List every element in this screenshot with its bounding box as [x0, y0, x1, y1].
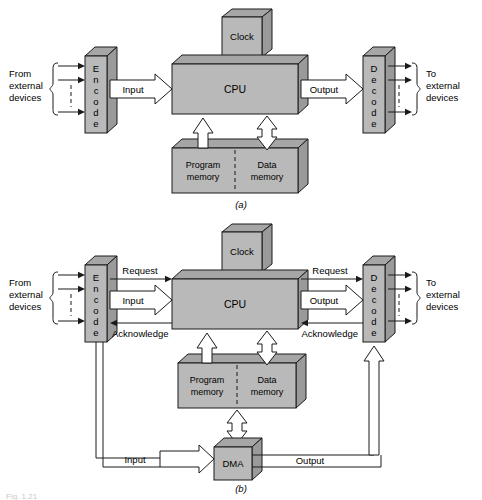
decode-label-a-letter-3: o [371, 96, 376, 107]
to-external-devices-group-a: To external devices [388, 63, 460, 115]
decode-label-b-letter-4: d [371, 316, 376, 327]
data-memory-label-a-line1: Data [257, 160, 276, 170]
cpu-block-b: CPU [172, 270, 308, 329]
figure-root: Clock CPU Program memory Data memory [0, 0, 482, 500]
memory-block-b: Program memory Data memory [178, 354, 306, 408]
to-external-brace-b [412, 272, 420, 324]
dma-to-decode-vertical-arrow-b [364, 346, 384, 455]
encode-to-dma-input-lower-b [103, 342, 160, 467]
dma-label-b: DMA [222, 458, 244, 469]
program-memory-label-a-line1: Program [186, 160, 221, 170]
from-external-arrowhead-2-a [78, 77, 85, 83]
from-external-label-a-line2: external [9, 80, 43, 91]
to-external-arrowhead-1-a [405, 63, 412, 69]
from-external-arrowhead-2-b [78, 286, 85, 292]
to-external-label-b-line2: external [426, 289, 460, 300]
decode-label-b-letter-3: o [371, 305, 376, 316]
from-external-label-b-line3: devices [9, 301, 41, 312]
acknowledge-left-label-b: Acknowledge [112, 328, 169, 339]
clock-block-b: Clock [222, 224, 272, 272]
decode-label-a-letter-4: d [371, 107, 376, 118]
output-signal-label-a: Output [310, 84, 339, 95]
data-memory-label-b-line2: memory [251, 387, 284, 397]
program-memory-label-b-line2: memory [191, 387, 224, 397]
cpu-label-b: CPU [224, 298, 246, 310]
panel-a-diagram: Clock CPU Program memory Data memory [0, 0, 482, 215]
request-left-arrowhead-b [165, 276, 172, 282]
request-right-label-b: Request [312, 265, 348, 276]
to-external-label-a-line1: To [426, 68, 436, 79]
to-external-devices-group-b: To external devices [388, 272, 460, 324]
encode-label-a-letter-5: e [93, 118, 98, 129]
memory-block-a: Program memory Data memory [172, 139, 308, 193]
clock-label-b: Clock [230, 246, 254, 257]
encode-label-b-letter-5: e [93, 327, 98, 338]
output-right-label-b: Output [310, 295, 339, 306]
decode-label-a-letter-0: D [371, 63, 378, 74]
dma-output-label-b: Output [296, 455, 325, 466]
encode-label-a-letter-3: o [93, 96, 98, 107]
program-memory-label-b-line1: Program [190, 375, 225, 385]
decode-label-b-letter-5: e [371, 327, 376, 338]
decode-label-b-letter-2: c [372, 294, 377, 305]
data-memory-label-b-line1: Data [257, 375, 276, 385]
dma-input-label-b: Input [124, 454, 145, 465]
encode-label-a-letter-4: d [93, 107, 98, 118]
to-external-arrowhead-1-b [405, 272, 412, 278]
encode-label-b-letter-4: d [93, 316, 98, 327]
input-left-label-b: Input [122, 295, 143, 306]
cpu-label-a: CPU [224, 83, 246, 95]
panel-b-caption: (b) [235, 483, 247, 494]
decode-label-a-letter-2: c [372, 85, 377, 96]
to-external-label-b-line1: To [426, 277, 436, 288]
to-external-arrowhead-3-a [405, 109, 412, 115]
from-external-arrowhead-1-a [78, 63, 85, 69]
encode-to-dma-input-path-b [96, 342, 160, 458]
decode-label-a-letter-5: e [371, 118, 376, 129]
to-external-label-a-line3: devices [426, 92, 458, 103]
request-left-label-b: Request [122, 265, 158, 276]
decode-label-a-letter-1: e [371, 74, 376, 85]
panel-a-caption: (a) [235, 199, 247, 210]
to-external-brace-a [412, 63, 420, 115]
encode-label-a-letter-1: n [93, 74, 98, 85]
decode-block-a: D e c o d e [363, 47, 395, 133]
from-external-label-b-line2: external [9, 289, 43, 300]
from-external-devices-group-b: From external devices [9, 272, 85, 324]
encode-label-b-letter-1: n [93, 283, 98, 294]
clock-block-a: Clock [222, 9, 272, 57]
from-external-brace-a [50, 63, 58, 115]
from-external-arrowhead-3-a [78, 109, 85, 115]
from-external-brace-b [50, 272, 58, 324]
figure-bottom-caption: Fig. 1.21 [6, 492, 38, 500]
to-external-arrowhead-2-a [405, 77, 412, 83]
encode-label-b-letter-3: o [93, 305, 98, 316]
from-external-devices-group-a: From external devices [9, 63, 85, 115]
from-external-label-b-line1: From [9, 277, 31, 288]
encode-label-b-letter-2: c [94, 294, 99, 305]
dma-input-block-arrow-b [160, 445, 214, 473]
program-memory-label-a-line2: memory [187, 172, 220, 182]
cpu-block-a: CPU [172, 55, 308, 114]
panel-b-diagram: Clock CPU Program memory Data memory [0, 215, 482, 500]
from-external-arrowhead-3-b [78, 318, 85, 324]
input-signal-label-a: Input [122, 84, 143, 95]
acknowledge-right-label-b: Acknowledge [301, 328, 358, 339]
encode-label-a-letter-2: c [94, 85, 99, 96]
to-external-label-b-line3: devices [426, 301, 458, 312]
from-external-label-a-line1: From [9, 68, 31, 79]
dma-block-b: DMA [214, 438, 262, 480]
data-memory-label-a-line2: memory [251, 172, 284, 182]
to-external-arrowhead-2-b [405, 286, 412, 292]
clock-label-a: Clock [230, 31, 254, 42]
to-external-arrowhead-3-b [405, 318, 412, 324]
to-external-label-a-line2: external [426, 80, 460, 91]
request-right-arrowhead-b [356, 276, 363, 282]
encode-label-a-letter-0: E [93, 63, 99, 74]
from-external-label-a-line3: devices [9, 92, 41, 103]
decode-block-b: D e c o d e [363, 256, 395, 342]
encode-label-b-letter-0: E [93, 272, 99, 283]
from-external-arrowhead-1-b [78, 272, 85, 278]
decode-label-b-letter-1: e [371, 283, 376, 294]
decode-label-b-letter-0: D [371, 272, 378, 283]
